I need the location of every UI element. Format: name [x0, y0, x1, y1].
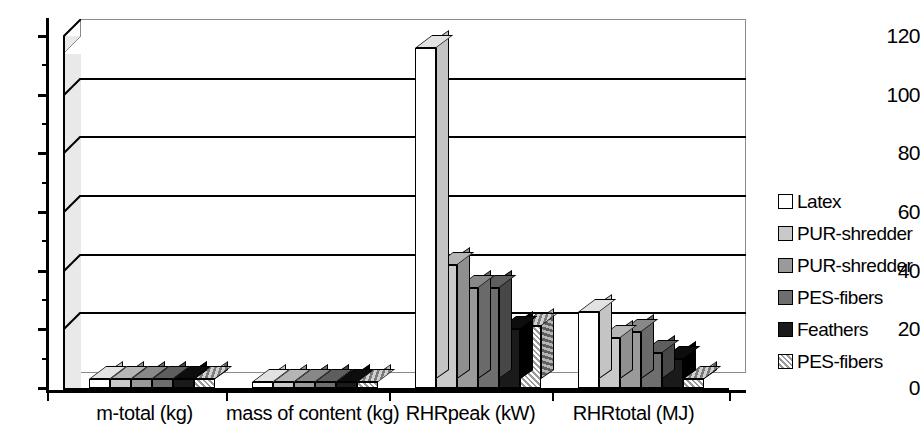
bar-mtotalkg-series1: [110, 379, 131, 388]
plot-area: [63, 19, 746, 390]
x-axis-label-3: RHRtotal (MJ): [552, 402, 715, 424]
bar-rhrtotalmj-series5: [683, 379, 704, 388]
y-tick-mark-120: [38, 35, 49, 38]
plot-front-left-edge: [63, 36, 65, 390]
legend-item-4[interactable]: Feathers: [778, 313, 918, 345]
plot-corner-diagonal: [63, 36, 81, 54]
bar-chart: 120100806040200 m-total (kg)mass of cont…: [0, 0, 920, 429]
bar-face: [578, 312, 599, 388]
gridline-connector-20: [63, 312, 81, 330]
bar-mtotalkg-series3: [152, 379, 173, 388]
y-tick-label-80: 80: [876, 142, 920, 163]
bar-mtotalkg-series0: [89, 379, 110, 388]
legend-swatch-icon-0: [778, 194, 793, 209]
bar-face: [273, 382, 294, 388]
x-tick-1: [226, 390, 228, 401]
y-axis-line: [46, 18, 49, 390]
y-tick-minor-30: [42, 299, 49, 301]
bar-massofcontentkg-series0: [252, 382, 273, 388]
gridline-80: [80, 136, 746, 138]
legend-item-5[interactable]: PES-fibers: [778, 345, 918, 377]
legend-item-1[interactable]: PUR-shredder: [778, 217, 918, 249]
bar-face: [415, 48, 436, 388]
bar-side: [436, 30, 449, 379]
bar-face: [315, 382, 336, 388]
bar-face: [194, 379, 215, 388]
bar-face: [357, 382, 378, 388]
legend-label-0: Latex: [797, 192, 841, 211]
gridline-connector-100: [63, 78, 81, 96]
bar-side: [457, 247, 470, 379]
x-tick-4: [729, 390, 731, 401]
gridline-connector-120: [63, 19, 81, 37]
bar-face: [683, 379, 704, 388]
legend: LatexPUR-shredderPUR-shredderPES-fibersF…: [778, 185, 918, 377]
y-tick-mark-20: [38, 328, 49, 331]
bar-face: [294, 382, 315, 388]
y-tick-mark-80: [38, 152, 49, 155]
bar-mtotalkg-series2: [131, 379, 152, 388]
legend-swatch-icon-5: [778, 354, 793, 369]
legend-label-1: PUR-shredder: [797, 224, 912, 243]
gridline-100: [80, 78, 746, 80]
bar-massofcontentkg-series1: [273, 382, 294, 388]
gridline-connector-60: [63, 195, 81, 213]
bar-mtotalkg-series4: [173, 379, 194, 388]
y-tick-mark-40: [38, 270, 49, 273]
legend-swatch-icon-3: [778, 290, 793, 305]
bar-rhrpeakkw-series0: [415, 48, 436, 388]
bar-face: [252, 382, 273, 388]
legend-label-5: PES-fibers: [797, 352, 883, 371]
x-axis-label-1: mass of content (kg): [226, 402, 389, 424]
gridline-40: [80, 254, 746, 256]
bar-face: [131, 379, 152, 388]
y-tick-label-0: 0: [876, 377, 920, 398]
y-tick-minor-110: [42, 64, 49, 66]
bar-face: [89, 379, 110, 388]
gridline-connector-80: [63, 136, 81, 154]
x-tick-0: [47, 390, 49, 401]
x-axis-line: [46, 390, 746, 393]
x-axis-label-0: m-total (kg): [63, 402, 226, 424]
legend-label-4: Feathers: [797, 320, 868, 339]
x-tick-3: [552, 390, 554, 401]
bar-mtotalkg-series5: [194, 379, 215, 388]
bar-face: [173, 379, 194, 388]
y-tick-mark-100: [38, 94, 49, 97]
y-tick-minor-70: [42, 182, 49, 184]
y-tick-label-120: 120: [876, 25, 920, 46]
bar-massofcontentkg-series4: [336, 382, 357, 388]
legend-label-3: PES-fibers: [797, 288, 883, 307]
gridline-connector-40: [63, 254, 81, 272]
bar-face: [152, 379, 173, 388]
y-tick-minor-10: [42, 358, 49, 360]
y-tick-label-100: 100: [876, 84, 920, 105]
legend-swatch-icon-2: [778, 258, 793, 273]
bar-massofcontentkg-series5: [357, 382, 378, 388]
y-tick-mark-60: [38, 211, 49, 214]
legend-swatch-icon-4: [778, 322, 793, 337]
bar-massofcontentkg-series2: [294, 382, 315, 388]
gridline-20: [80, 312, 746, 314]
y-tick-minor-50: [42, 240, 49, 242]
legend-item-3[interactable]: PES-fibers: [778, 281, 918, 313]
legend-swatch-icon-1: [778, 226, 793, 241]
x-axis-label-2: RHRpeak (kW): [389, 402, 552, 424]
bar-face: [110, 379, 131, 388]
bar-face: [336, 382, 357, 388]
bar-rhrtotalmj-series0: [578, 312, 599, 388]
gridline-60: [80, 195, 746, 197]
x-tick-2: [389, 390, 391, 401]
y-tick-minor-90: [42, 123, 49, 125]
bar-massofcontentkg-series3: [315, 382, 336, 388]
legend-label-2: PUR-shredder: [797, 256, 912, 275]
legend-item-2[interactable]: PUR-shredder: [778, 249, 918, 281]
legend-item-0[interactable]: Latex: [778, 185, 918, 217]
